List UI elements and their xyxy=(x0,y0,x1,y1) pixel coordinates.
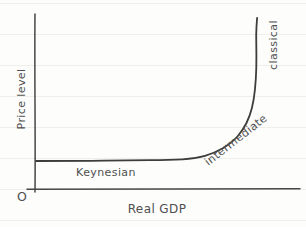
keynesian-range-label: Keynesian xyxy=(76,166,136,179)
as-curve-figure: Price level Real GDP O Keynesian interme… xyxy=(0,0,306,227)
origin-label: O xyxy=(17,189,27,204)
classical-range-label: classical xyxy=(267,20,280,70)
x-axis-line xyxy=(27,189,300,190)
y-axis-label: Price level xyxy=(15,69,28,130)
x-axis-label: Real GDP xyxy=(128,202,187,216)
